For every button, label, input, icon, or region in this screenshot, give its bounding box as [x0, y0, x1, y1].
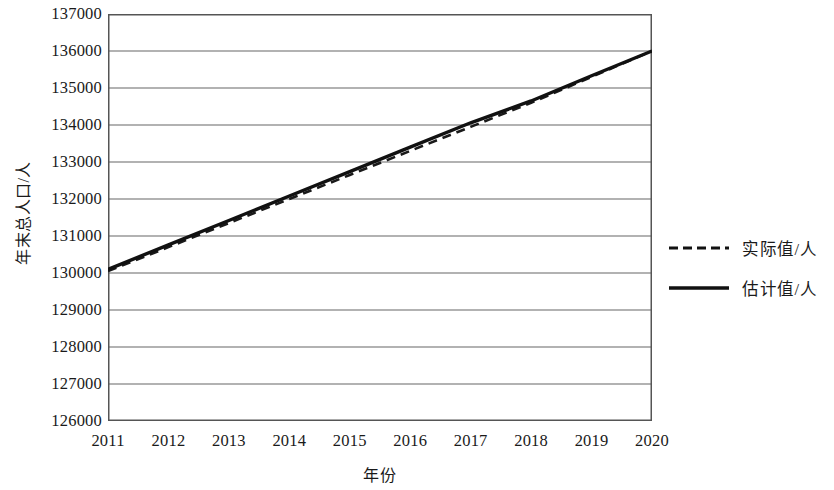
y-axis-tick-label: 126000	[16, 413, 102, 429]
y-axis-tick-labels: 1370001360001350001340001330001320001310…	[14, 0, 102, 490]
gridlines	[108, 51, 652, 384]
x-axis-tick-label: 2015	[333, 432, 367, 450]
x-axis-tick-label: 2013	[212, 432, 246, 450]
x-axis-tick-label: 2018	[514, 432, 548, 450]
legend-label: 估计值/人	[742, 276, 817, 300]
legend-label: 实际值/人	[742, 236, 817, 260]
x-axis-tick-label: 2012	[152, 432, 186, 450]
legend-item[interactable]: 实际值/人	[668, 228, 834, 268]
y-axis-tick-label: 136000	[16, 43, 102, 59]
population-line-chart: 年末总人口/人 13700013600013500013400013300013…	[0, 0, 834, 490]
legend-item[interactable]: 估计值/人	[668, 268, 834, 308]
y-axis-tick-label: 131000	[16, 228, 102, 244]
legend-swatch-solid	[668, 281, 730, 295]
y-axis-tick-label: 132000	[16, 191, 102, 207]
x-axis-tick-label: 2019	[575, 432, 609, 450]
y-axis-tick-label: 137000	[16, 6, 102, 22]
y-axis-tick-label: 134000	[16, 117, 102, 133]
y-axis-tick-label: 133000	[16, 154, 102, 170]
plot-area	[108, 14, 652, 421]
legend-swatch-dashed	[668, 241, 730, 255]
chart-legend: 实际值/人估计值/人	[668, 228, 834, 308]
x-axis-title: 年份	[108, 462, 652, 486]
x-axis-tick-label: 2016	[393, 432, 427, 450]
x-axis-tick-label: 2011	[91, 432, 124, 450]
x-axis-tick-label: 2020	[635, 432, 669, 450]
y-axis-tick-label: 130000	[16, 265, 102, 281]
data-series-group	[108, 51, 652, 271]
plot-border	[109, 15, 652, 421]
x-axis-tick-labels: 2011201220132014201520162017201820192020	[108, 432, 652, 456]
x-axis-tick-label: 2017	[454, 432, 488, 450]
y-axis-tick-label: 129000	[16, 302, 102, 318]
x-axis-tick-label: 2014	[272, 432, 306, 450]
y-axis-tick-label: 135000	[16, 80, 102, 96]
y-axis-tick-label: 128000	[16, 339, 102, 355]
plot-svg	[108, 14, 652, 421]
y-axis-tick-label: 127000	[16, 376, 102, 392]
